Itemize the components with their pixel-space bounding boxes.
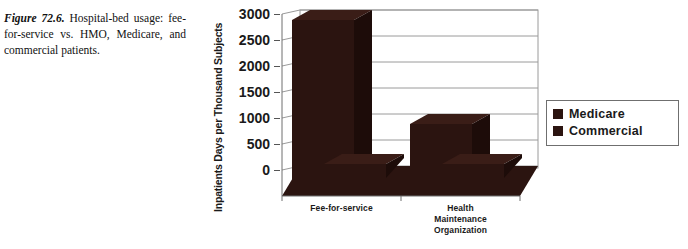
x-tick-marks xyxy=(282,196,520,201)
figure-number: Figure 72.6. xyxy=(4,12,65,24)
x-category-label-hmo: Health Maintenance Organization xyxy=(401,203,520,236)
legend-label-commercial: Commercial xyxy=(569,124,643,138)
figure-caption: Figure 72.6. Hospital-bed usage: fee-for… xyxy=(4,10,186,58)
bar-chart: Inpatients Days per Thousand Subjects 0 … xyxy=(196,0,688,249)
chart-legend: Medicare Commercial xyxy=(546,100,679,146)
legend-swatch-commercial xyxy=(553,126,563,136)
legend-item-medicare: Medicare xyxy=(553,106,672,122)
legend-label-medicare: Medicare xyxy=(569,107,625,121)
legend-item-commercial: Commercial xyxy=(553,123,672,139)
x-category-label-fee-for-service: Fee-for-service xyxy=(282,203,401,214)
legend-swatch-medicare xyxy=(553,109,563,119)
